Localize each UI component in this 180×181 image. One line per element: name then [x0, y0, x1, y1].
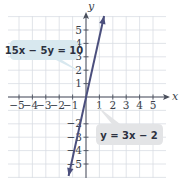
y-tick-label: −5 — [67, 158, 82, 170]
equation-label-standard-form: 15x − 5y = 10 — [5, 40, 84, 74]
y-tick-label: 1 — [75, 77, 82, 89]
x-tick-label: 2 — [109, 99, 116, 111]
y-tick-label: −3 — [67, 131, 82, 143]
y-tick-label: 5 — [75, 24, 82, 36]
x-tick-label: 1 — [96, 99, 103, 111]
equation-text: 15x − 5y = 10 — [5, 45, 83, 56]
x-axis-label: x — [172, 90, 179, 103]
x-tick-label: 5 — [150, 99, 157, 111]
x-tick-label: −1 — [63, 99, 78, 111]
x-tick-label: 4 — [136, 99, 143, 111]
x-tick-label: 3 — [123, 99, 130, 111]
coordinate-plane: −5−4−3−2−11234554321−2−3−4−5 15x − 5y = … — [0, 0, 180, 181]
y-axis-label: y — [87, 0, 95, 13]
equation-text: y = 3x − 2 — [100, 130, 158, 141]
